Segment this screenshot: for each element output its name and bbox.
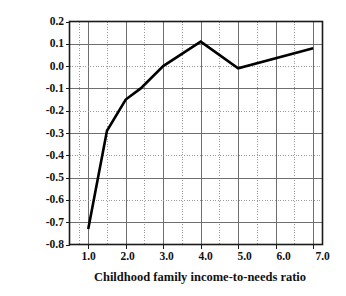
y-tick-label: -0.1 xyxy=(30,83,64,94)
y-tick-label: 0.1 xyxy=(30,38,64,49)
x-tick-label: 5.0 xyxy=(225,250,265,262)
x-tick-label: 1.0 xyxy=(69,250,109,262)
y-tick-label: -0.8 xyxy=(30,239,64,250)
x-tick-label: 3.0 xyxy=(147,250,187,262)
y-tick-label: -0.4 xyxy=(30,150,64,161)
chart-figure: Log adult family income-to-needs ratio 0… xyxy=(0,0,346,296)
y-tick-label: -0.3 xyxy=(30,128,64,139)
y-tick-label: -0.6 xyxy=(30,194,64,205)
x-tick-label: 2.0 xyxy=(108,250,148,262)
x-tick-label: 6.0 xyxy=(264,250,304,262)
x-axis-tick-labels: 1.0 2.0 3.0 4.0 5.0 6.0 7.0 xyxy=(0,250,346,266)
y-tick-label: -0.2 xyxy=(30,105,64,116)
y-tick-label: -0.5 xyxy=(30,172,64,183)
y-tick-label: 0.0 xyxy=(30,61,64,72)
y-tick-label: 0.2 xyxy=(30,16,64,27)
x-tick-label: 7.0 xyxy=(303,250,343,262)
x-axis-label: Childhood family income-to-needs ratio xyxy=(60,270,340,285)
x-tick-label: 4.0 xyxy=(186,250,226,262)
y-tick-label: -0.7 xyxy=(30,217,64,228)
